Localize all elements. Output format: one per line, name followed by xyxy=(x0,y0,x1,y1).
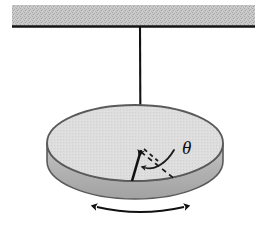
ceiling-hatched-block xyxy=(12,5,255,26)
ceiling-support xyxy=(12,5,255,27)
oscillation-double-arrow xyxy=(97,207,184,212)
rotating-disk xyxy=(47,105,223,199)
pendulum-disk-diagram: θ xyxy=(0,0,267,230)
angle-theta-label: θ xyxy=(182,137,191,158)
diagram-canvas: θ xyxy=(0,0,267,230)
